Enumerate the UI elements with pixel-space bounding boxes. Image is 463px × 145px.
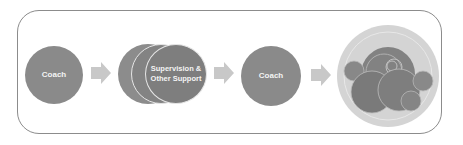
arrow-right-icon [214, 62, 234, 84]
support-label-line2: Other Support [145, 74, 207, 84]
support-label: Supervision & Other Support [145, 64, 207, 84]
support-label-line1: Supervision & [145, 64, 207, 74]
arrow-right-icon [91, 62, 111, 84]
network-cluster-icon [336, 24, 440, 128]
coach-label-2: Coach [241, 71, 301, 81]
arrow-right-icon [311, 64, 331, 86]
coach-label-1: Coach [25, 70, 83, 80]
